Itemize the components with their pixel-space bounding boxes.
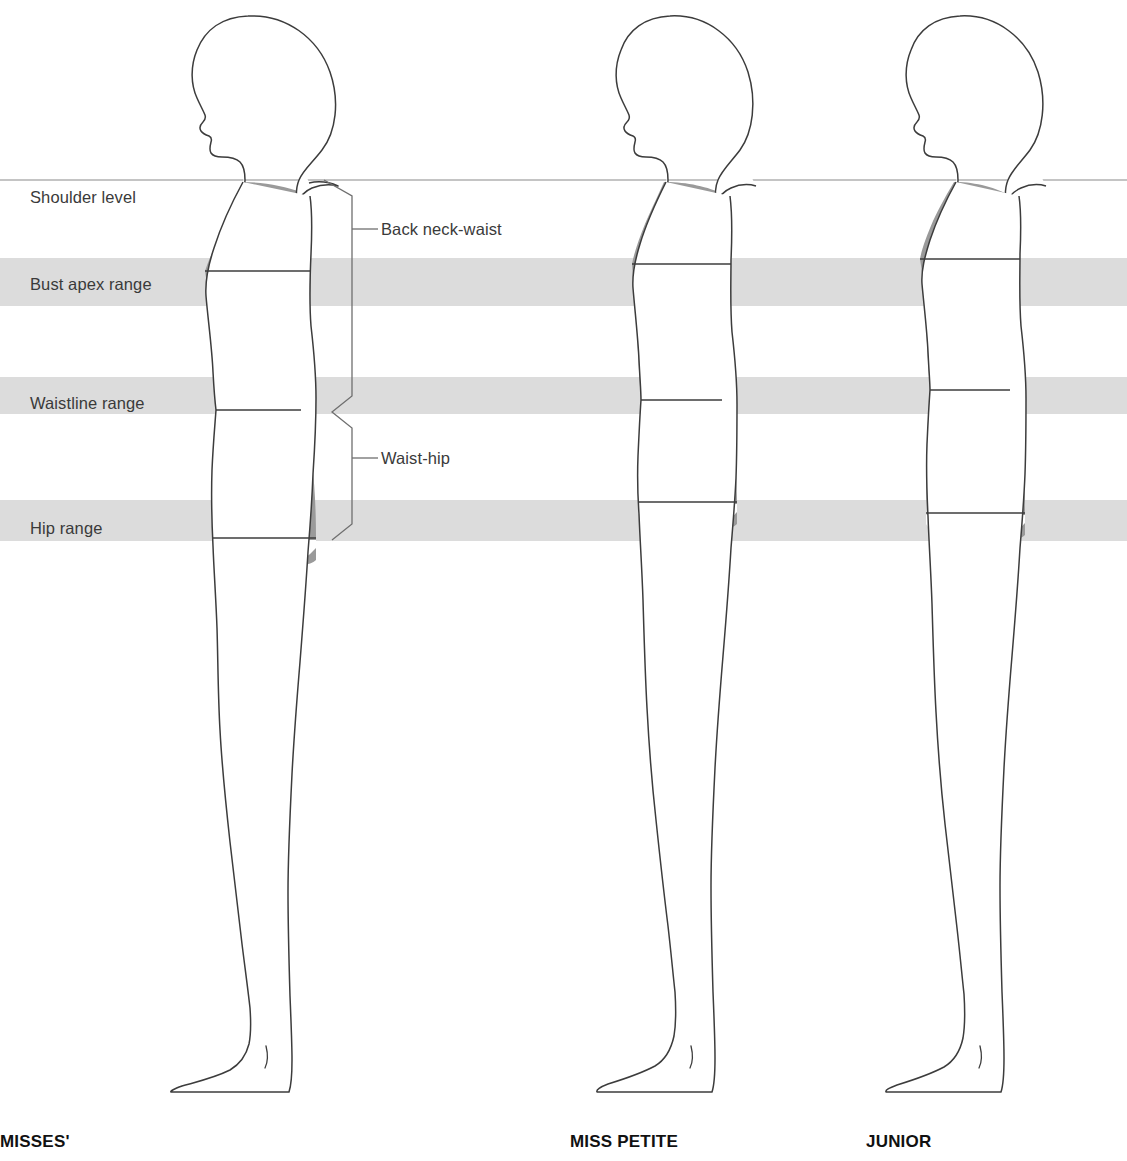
figure-captions: MISSES' MISS PETITE JUNIOR bbox=[0, 1132, 931, 1151]
label-back-neck-waist: Back neck-waist bbox=[381, 220, 502, 238]
label-waist-hip: Waist-hip bbox=[381, 449, 450, 467]
figure-misses bbox=[171, 16, 338, 1092]
measurement-bracket bbox=[324, 180, 352, 540]
body-outline-misses bbox=[192, 16, 338, 204]
label-bust-apex-range: Bust apex range bbox=[30, 275, 152, 293]
callout-labels: Back neck-waist Waist-hip bbox=[381, 220, 502, 467]
body-outline-junior bbox=[906, 16, 1046, 204]
caption-junior: JUNIOR bbox=[866, 1132, 931, 1151]
caption-misses: MISSES' bbox=[0, 1132, 70, 1151]
figure-proportion-diagram: Shoulder level Bust apex range Waistline… bbox=[0, 0, 1127, 1161]
diagram-canvas: Shoulder level Bust apex range Waistline… bbox=[0, 0, 1127, 1161]
silhouette-petite bbox=[597, 182, 737, 1092]
label-shoulder-level: Shoulder level bbox=[30, 188, 136, 206]
label-waistline-range: Waistline range bbox=[30, 394, 145, 412]
silhouette-misses bbox=[171, 182, 316, 1092]
bracket-path bbox=[324, 180, 352, 540]
body-outline-petite bbox=[616, 16, 756, 204]
figure-junior bbox=[886, 16, 1046, 1092]
label-hip-range: Hip range bbox=[30, 519, 102, 537]
silhouette-junior bbox=[886, 182, 1026, 1092]
range-labels: Shoulder level Bust apex range Waistline… bbox=[30, 188, 152, 537]
caption-miss-petite: MISS PETITE bbox=[570, 1132, 678, 1151]
figure-miss-petite bbox=[597, 16, 756, 1092]
